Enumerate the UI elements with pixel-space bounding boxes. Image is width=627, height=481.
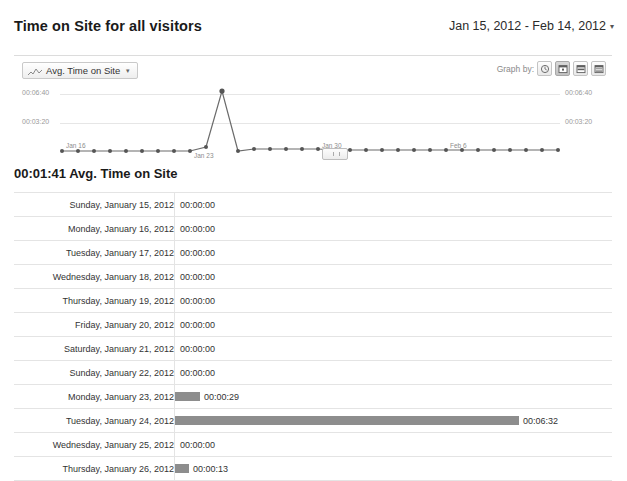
row-date: Monday, January 23, 2012 xyxy=(14,385,175,409)
page-title: Time on Site for all visitors xyxy=(14,18,202,34)
row-value: 00:00:00 xyxy=(180,224,215,234)
row-value: 00:00:00 xyxy=(180,296,215,306)
row-value-cell: 00:00:00 xyxy=(175,337,613,361)
clock-icon[interactable] xyxy=(537,61,552,76)
row-value-cell: 00:00:00 xyxy=(175,265,613,289)
table-row: Tuesday, January 24, 2012 00:06:32 xyxy=(14,409,612,433)
graph-by-label: Graph by: xyxy=(497,64,534,74)
table-row: Monday, January 16, 2012 00:00:00 xyxy=(14,217,612,241)
graph-by-controls: Graph by: xyxy=(497,61,606,76)
table-row: Friday, January 20, 2012 00:00:00 xyxy=(14,313,612,337)
table-row: Wednesday, January 25, 2012 00:00:00 xyxy=(14,433,612,457)
row-value: 00:00:13 xyxy=(193,464,228,474)
daily-values-table: Sunday, January 15, 2012 00:00:00 Monday… xyxy=(14,192,612,481)
row-date: Wednesday, January 25, 2012 xyxy=(14,433,175,457)
row-date: Saturday, January 21, 2012 xyxy=(14,337,175,361)
row-value-cell: 00:00:00 xyxy=(175,193,613,217)
row-value: 00:00:00 xyxy=(180,440,215,450)
metric-selector-button[interactable]: Avg. Time on Site ▾ xyxy=(22,62,138,79)
row-date: Tuesday, January 17, 2012 xyxy=(14,241,175,265)
calendar-month-icon[interactable] xyxy=(591,61,606,76)
row-value-cell: 00:00:00 xyxy=(175,241,613,265)
row-value-cell: 00:00:29 xyxy=(175,385,613,409)
row-value: 00:06:32 xyxy=(523,416,558,426)
metric-selector-label: Avg. Time on Site xyxy=(46,65,120,76)
row-bar xyxy=(175,416,519,425)
row-date: Tuesday, January 24, 2012 xyxy=(14,409,175,433)
table-row: Thursday, January 26, 2012 00:00:13 xyxy=(14,457,612,481)
time-on-site-line-chart: 00:06:40 00:03:20 00:06:40 00:03:20 xyxy=(22,82,604,158)
chevron-down-icon: ▾ xyxy=(126,67,130,75)
table-row: Sunday, January 22, 2012 00:00:00 xyxy=(14,361,612,385)
series-avg-time-on-site xyxy=(22,82,604,158)
row-value: 00:00:00 xyxy=(180,200,215,210)
row-value: 00:00:00 xyxy=(180,272,215,282)
row-date: Thursday, January 19, 2012 xyxy=(14,289,175,313)
row-value-cell: 00:00:00 xyxy=(175,217,613,241)
x-tick-label-3: Feb 6 xyxy=(450,142,467,149)
row-date: Monday, January 16, 2012 xyxy=(14,217,175,241)
row-value-cell: 00:00:00 xyxy=(175,289,613,313)
sparkline-icon xyxy=(28,67,42,75)
date-range-text: Jan 15, 2012 - Feb 14, 2012 xyxy=(449,19,606,33)
row-value: 00:00:00 xyxy=(180,320,215,330)
row-value-cell: 00:00:13 xyxy=(175,457,613,481)
chevron-down-icon: ▾ xyxy=(610,22,614,31)
date-range-selector[interactable]: Jan 15, 2012 - Feb 14, 2012▾ xyxy=(449,19,614,33)
row-bar xyxy=(175,392,200,401)
row-value: 00:00:00 xyxy=(180,248,215,258)
chart-panel: Avg. Time on Site ▾ Graph by: 00:06:40 xyxy=(14,55,612,164)
row-value: 00:00:00 xyxy=(180,344,215,354)
row-date: Sunday, January 22, 2012 xyxy=(14,361,175,385)
row-value-cell: 00:00:00 xyxy=(175,433,613,457)
table-row: Sunday, January 15, 2012 00:00:00 xyxy=(14,193,612,217)
calendar-week-icon[interactable] xyxy=(573,61,588,76)
row-value-cell: 00:00:00 xyxy=(175,361,613,385)
row-value: 00:00:00 xyxy=(180,368,215,378)
row-value-cell: 00:06:32 xyxy=(175,409,613,433)
row-bar xyxy=(175,464,189,473)
row-date: Friday, January 20, 2012 xyxy=(14,313,175,337)
table-row: Saturday, January 21, 2012 00:00:00 xyxy=(14,337,612,361)
row-value: 00:00:29 xyxy=(204,392,239,402)
row-date: Thursday, January 26, 2012 xyxy=(14,457,175,481)
x-tick-label-0: Jan 16 xyxy=(66,142,86,149)
calendar-day-icon[interactable] xyxy=(555,61,570,76)
table-row: Monday, January 23, 2012 00:00:29 xyxy=(14,385,612,409)
table-row: Thursday, January 19, 2012 00:00:00 xyxy=(14,289,612,313)
table-row: Wednesday, January 18, 2012 00:00:00 xyxy=(14,265,612,289)
page-header: Time on Site for all visitors Jan 15, 20… xyxy=(14,18,614,44)
row-date: Sunday, January 15, 2012 xyxy=(14,193,175,217)
x-tick-label-1: Jan 23 xyxy=(194,152,214,159)
table-body: Sunday, January 15, 2012 00:00:00 Monday… xyxy=(14,193,612,481)
table-row: Tuesday, January 17, 2012 00:00:00 xyxy=(14,241,612,265)
chart-range-slider-handle[interactable] xyxy=(322,148,348,160)
summary-metric: 00:01:41 Avg. Time on Site xyxy=(14,166,178,181)
row-value-cell: 00:00:00 xyxy=(175,313,613,337)
row-date: Wednesday, January 18, 2012 xyxy=(14,265,175,289)
